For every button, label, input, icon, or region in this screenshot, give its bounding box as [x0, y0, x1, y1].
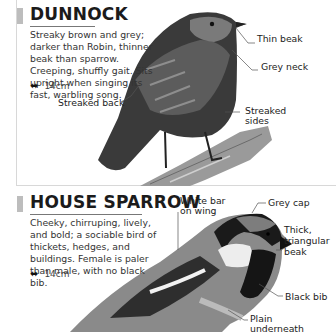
label-plain-2: underneath	[250, 323, 304, 332]
label-beak-1: Thick,	[284, 224, 312, 235]
dunnock-size-value: 14cm	[44, 81, 69, 91]
house-sparrow-size: ⬌ 14cm	[30, 268, 70, 279]
label-white-bar-2: on wing	[180, 205, 217, 216]
label-streaked-sides-2: sides	[245, 115, 269, 126]
label-grey-neck: Grey neck	[261, 61, 308, 72]
label-thin-beak: Thin beak	[257, 33, 303, 44]
dunnock-size: ⬌ 14cm	[30, 80, 70, 91]
label-beak-3: beak	[284, 246, 307, 257]
label-beak-2: triangular	[284, 235, 330, 246]
section-tab-marker	[17, 196, 23, 212]
house-sparrow-size-value: 14cm	[44, 269, 69, 279]
label-black-bib: Black bib	[285, 291, 328, 302]
section-tab-marker	[17, 8, 23, 24]
label-grey-cap: Grey cap	[268, 197, 310, 208]
dunnock-title: DUNNOCK	[30, 4, 95, 27]
wingspan-arrows-icon: ⬌	[30, 80, 38, 91]
house-sparrow-title: HOUSE SPARROW	[30, 192, 142, 215]
label-streaked-back: Streaked back	[58, 97, 124, 108]
wingspan-arrows-icon: ⬌	[30, 268, 38, 279]
